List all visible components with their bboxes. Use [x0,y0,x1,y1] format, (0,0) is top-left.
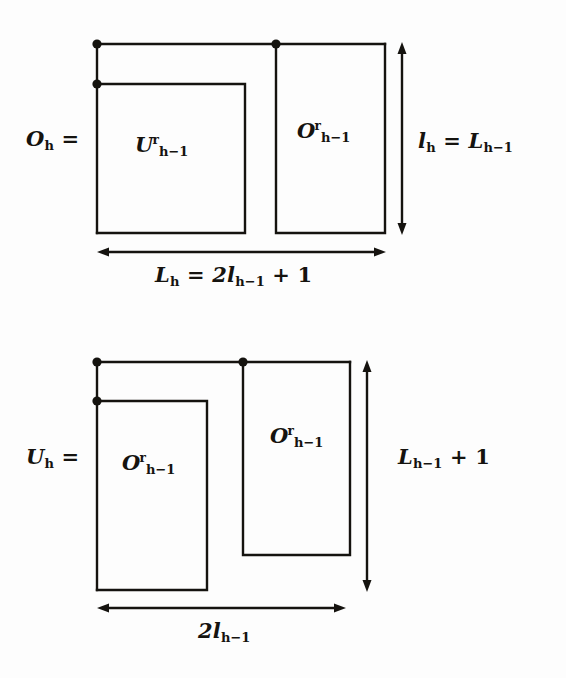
corner-dot [92,396,101,405]
lower-right-box [243,362,350,555]
figure-line-art [0,0,566,678]
lower-left-box [97,401,207,590]
figure-root: Oh = Urh−1 Orh−1 lh = Lh−1 Lh = 2lh−1 + … [0,0,566,678]
lower-horizontal-dimension-arrow [97,604,346,613]
upper-vertical-dimension-label: lh = Lh−1 [418,130,513,154]
lower-horizontal-dimension-label: 2lh−1 [198,620,250,644]
lower-vertical-dimension-label: Lh−1 + 1 [398,446,490,470]
upper-lhs-label: Oh = [26,128,79,152]
corner-dot [92,39,101,48]
corner-dot [238,357,247,366]
upper-left-box-label: Urh−1 [135,134,188,158]
lower-vertical-dimension-arrow [363,360,372,592]
lower-lhs-label: Uh = [26,446,79,470]
lower-right-box-label: Orh−1 [270,425,323,449]
upper-horizontal-dimension-label: Lh = 2lh−1 + 1 [155,264,312,288]
lower-corner-dots [92,357,247,405]
upper-corner-dots [92,39,280,88]
upper-horizontal-dimension-arrow [97,248,386,257]
lower-left-box-label: Orh−1 [122,452,175,476]
corner-dot [92,357,101,366]
corner-dot [92,79,101,88]
corner-dot [271,39,280,48]
upper-right-box-label: Orh−1 [297,120,350,144]
upper-vertical-dimension-arrow [398,42,407,235]
